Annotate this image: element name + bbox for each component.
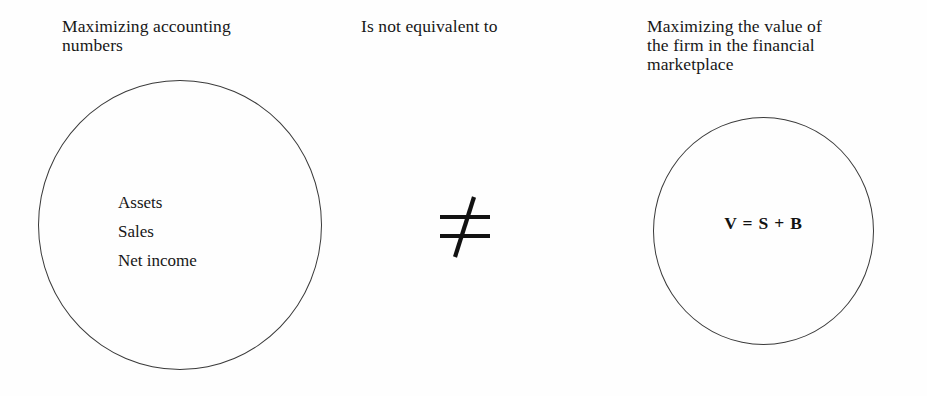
firm-value-formula: V = S + B [653, 213, 874, 234]
not-equal-sign-icon [436, 192, 494, 262]
middle-heading: Is not equivalent to [361, 17, 621, 36]
right-heading: Maximizing the value of the firm in the … [647, 17, 927, 74]
accounting-items-list: Assets Sales Net income [118, 188, 288, 275]
list-item: Sales [118, 217, 288, 246]
list-item: Assets [118, 188, 288, 217]
list-item: Net income [118, 246, 288, 275]
diagram-canvas: Maximizing accounting numbers Assets Sal… [0, 0, 927, 396]
left-heading: Maximizing accounting numbers [62, 17, 362, 55]
